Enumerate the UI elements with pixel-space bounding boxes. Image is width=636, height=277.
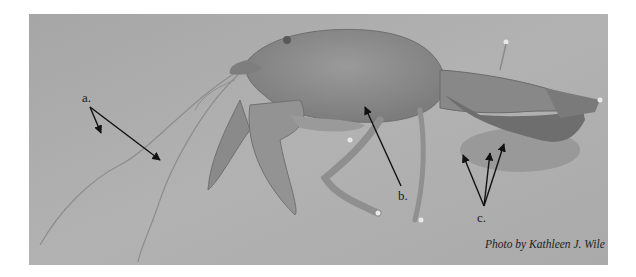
crayfish-photo xyxy=(29,14,608,265)
photo-credit: Photo by Kathleen J. Wile xyxy=(485,239,605,251)
crayfish-illustration xyxy=(29,14,608,265)
label-a: a. xyxy=(82,91,91,104)
label-c: c. xyxy=(477,211,486,224)
label-b: b. xyxy=(398,189,408,202)
